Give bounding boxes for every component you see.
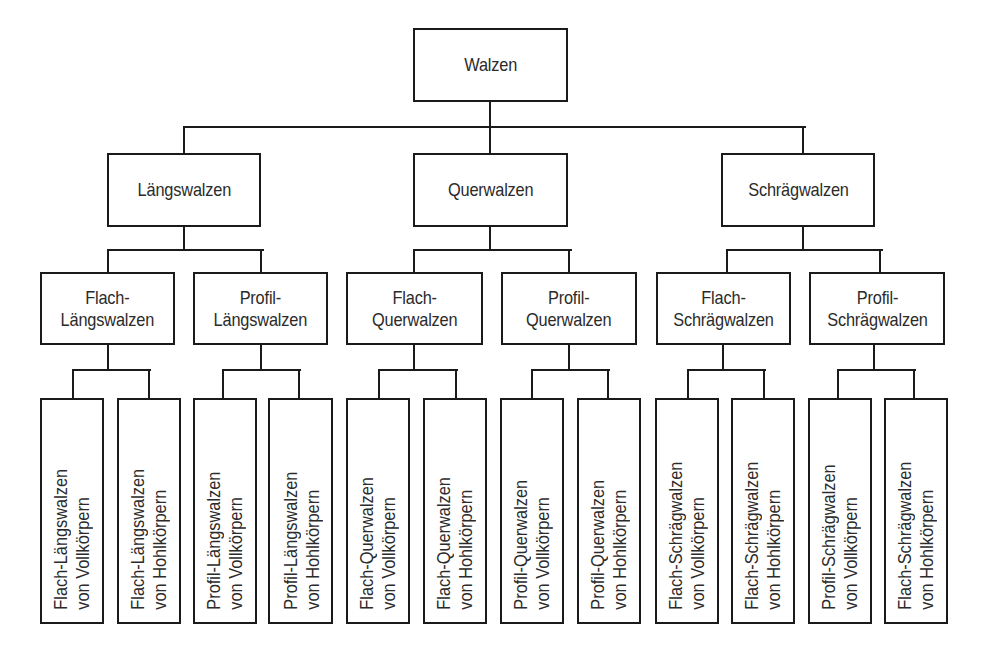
leaf-profil-querwalzen-hohlkoerper: Profil-Querwalzenvon Hohlkörpern	[577, 398, 641, 624]
node-walzen: Walzen	[413, 28, 568, 102]
connector-vertical	[489, 126, 491, 155]
node-label: Profil-Querwalzen	[526, 287, 611, 331]
leaf-label-line: von Hohlkörpern	[763, 490, 785, 620]
leaf-flach-schraegwalzen-hohlkoerper-2: Flach-Schrägwalzenvon Hohlkörpern	[884, 398, 948, 624]
connector-horizontal	[72, 369, 151, 371]
leaf-label-line: von Hohlkörpern	[609, 490, 631, 620]
leaf-label-line: von Hohlkörpern	[916, 490, 938, 620]
leaf-label-rotated: Flach-Querwalzenvon Vollkörpern	[349, 402, 407, 620]
node-flach-laengswalzen: Flach-Längswalzen	[40, 272, 175, 345]
node-label-line: Flach-	[61, 287, 154, 309]
connector-vertical	[260, 344, 262, 371]
connector-vertical	[726, 249, 728, 274]
connector-vertical	[802, 126, 804, 155]
connector-vertical	[260, 249, 262, 274]
leaf-label-rotated: Flach-Querwalzenvon Hohlkörpern	[426, 402, 484, 620]
connector-vertical	[879, 249, 881, 274]
walzen-classification-diagram: Walzen Längswalzen Querwalzen Schrägwalz…	[0, 0, 988, 664]
leaf-label-line: von Hohlkörpern	[301, 490, 323, 620]
node-label-line: Schrägwalzen	[673, 309, 774, 331]
connector-vertical	[107, 344, 109, 371]
node-querwalzen: Querwalzen	[413, 153, 568, 227]
connector-vertical	[107, 249, 109, 274]
connector-horizontal	[687, 369, 766, 371]
connector-horizontal	[531, 369, 610, 371]
connector-vertical	[568, 344, 570, 371]
leaf-flach-querwalzen-vollkoerper: Flach-Querwalzenvon Vollkörpern	[346, 398, 410, 624]
connector-horizontal	[726, 249, 883, 251]
leaf-profil-schraegwalzen-vollkoerper: Profil-Schrägwalzenvon Vollkörpern	[808, 398, 872, 624]
leaf-label-line: von Hohlkörpern	[149, 490, 171, 620]
leaf-profil-laengswalzen-vollkoerper: Profil-Längswalzenvon Vollkörpern	[193, 398, 257, 624]
leaf-label-line: Profil-Längswalzen	[279, 472, 301, 620]
leaf-label-rotated: Flach-Längswalzenvon Vollkörpern	[43, 402, 101, 620]
connector-vertical	[873, 344, 875, 371]
node-profil-querwalzen: Profil-Querwalzen	[501, 272, 637, 345]
leaf-label-rotated: Profil-Schrägwalzenvon Vollkörpern	[811, 402, 869, 620]
leaf-label-line: Profil-Querwalzen	[587, 480, 609, 620]
node-label: Flach-Schrägwalzen	[673, 287, 774, 331]
node-label-line: Walzen	[464, 54, 517, 76]
connector-vertical	[531, 369, 533, 400]
connector-vertical	[568, 249, 570, 274]
connector-vertical	[802, 226, 804, 251]
leaf-flach-querwalzen-hohlkoerper: Flach-Querwalzenvon Hohlkörpern	[423, 398, 487, 624]
leaf-label-line: von Vollkörpern	[378, 497, 400, 620]
leaf-label-line: Profil-Schrägwalzen	[818, 464, 840, 620]
leaf-label-line: von Vollkörpern	[72, 497, 94, 620]
connector-vertical	[607, 369, 609, 400]
connector-horizontal	[378, 369, 458, 371]
leaf-label-line: von Hohlkörpern	[455, 490, 477, 620]
node-label-line: Flach-	[372, 287, 457, 309]
leaf-label-line: Flach-Schrägwalzen	[665, 462, 687, 620]
node-profil-laengswalzen: Profil-Längswalzen	[193, 272, 328, 345]
node-label-line: Längswalzen	[137, 179, 230, 201]
connector-vertical	[837, 369, 839, 400]
connector-vertical	[913, 369, 915, 400]
leaf-label-rotated: Profil-Querwalzenvon Hohlkörpern	[580, 402, 638, 620]
node-label: Schrägwalzen	[748, 179, 849, 201]
connector-horizontal	[107, 249, 264, 251]
connector-horizontal	[413, 249, 572, 251]
leaf-label-line: Flach-Schrägwalzen	[894, 462, 916, 620]
connector-vertical	[763, 369, 765, 400]
node-label-line: Querwalzen	[448, 179, 533, 201]
connector-vertical	[687, 369, 689, 400]
leaf-label-line: von Vollkörpern	[687, 497, 709, 620]
connector-vertical	[455, 369, 457, 400]
leaf-label-line: von Vollkörpern	[225, 497, 247, 620]
leaf-profil-laengswalzen-hohlkoerper: Profil-Längswalzenvon Hohlkörpern	[268, 398, 333, 624]
node-schraegwalzen: Schrägwalzen	[721, 153, 875, 227]
leaf-label-rotated: Profil-Längswalzenvon Hohlkörpern	[271, 402, 330, 620]
leaf-label-rotated: Flach-Schrägwalzenvon Hohlkörpern	[887, 402, 945, 620]
node-label-line: Profil-	[214, 287, 307, 309]
node-label-line: Querwalzen	[372, 309, 457, 331]
leaf-label-line: Profil-Querwalzen	[510, 480, 532, 620]
leaf-label-rotated: Flach-Längswalzenvon Hohlkörpern	[120, 402, 178, 620]
node-profil-schraegwalzen: Profil-Schrägwalzen	[809, 272, 945, 345]
node-flach-querwalzen: Flach-Querwalzen	[346, 272, 483, 345]
leaf-label-line: Flach-Querwalzen	[356, 477, 378, 620]
connector-horizontal	[183, 126, 806, 128]
node-label-line: Profil-	[827, 287, 928, 309]
leaf-flach-laengswalzen-hohlkoerper: Flach-Längswalzenvon Hohlkörpern	[117, 398, 181, 624]
node-label: Längswalzen	[137, 179, 230, 201]
connector-vertical	[489, 226, 491, 251]
node-label-line: Längswalzen	[61, 309, 154, 331]
leaf-label-line: Flach-Querwalzen	[433, 477, 455, 620]
leaf-label-line: von Vollkörpern	[532, 497, 554, 620]
node-label: Querwalzen	[448, 179, 533, 201]
node-label: Profil-Längswalzen	[214, 287, 307, 331]
node-label-line: Querwalzen	[526, 309, 611, 331]
leaf-label-rotated: Flach-Schrägwalzenvon Vollkörpern	[658, 402, 716, 620]
leaf-label-line: Flach-Schrägwalzen	[741, 462, 763, 620]
connector-vertical	[72, 369, 74, 400]
connector-vertical	[298, 369, 300, 400]
connector-vertical	[413, 344, 415, 371]
leaf-flach-schraegwalzen-vollkoerper: Flach-Schrägwalzenvon Vollkörpern	[655, 398, 719, 624]
connector-vertical	[183, 126, 185, 155]
node-label-line: Flach-	[673, 287, 774, 309]
leaf-label-line: Flach-Längswalzen	[127, 469, 149, 620]
node-label: Flach-Längswalzen	[61, 287, 154, 331]
connector-vertical	[148, 369, 150, 400]
